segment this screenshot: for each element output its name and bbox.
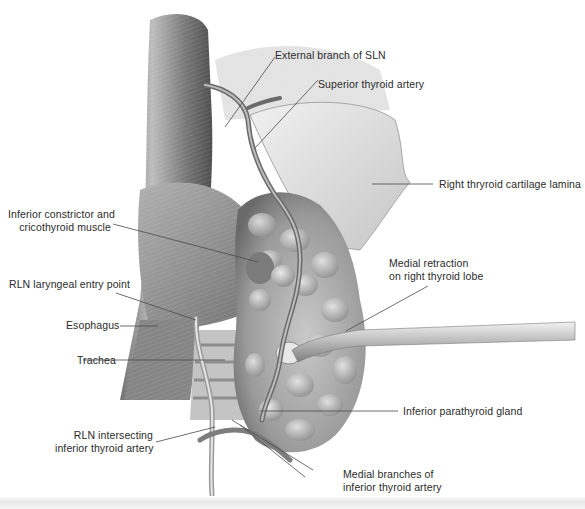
label-medial-branches-line2: inferior thyroid artery <box>343 481 442 494</box>
label-inferior-parathyroid: Inferior parathyroid gland <box>403 405 522 418</box>
superior-parathyroid <box>246 252 274 284</box>
label-inferior-constrictor-line2: cricothyroid muscle <box>8 221 111 234</box>
label-rln-intersecting-line1: RLN intersecting <box>55 429 153 442</box>
anatomy-diagram: External branch of SLN Superior thyroid … <box>0 0 585 509</box>
label-rln-intersecting: RLN intersecting inferior thyroid artery <box>55 429 153 455</box>
label-esophagus: Esophagus <box>66 319 119 332</box>
label-medial-branches: Medial branches of inferior thyroid arte… <box>343 468 442 494</box>
label-medial-retraction-line2: on right thyroid lobe <box>389 270 483 283</box>
bottom-divider <box>0 496 585 509</box>
label-inferior-constrictor-line1: Inferior constrictor and <box>8 208 111 221</box>
label-right-thyroid-cartilage-lamina: Right thryroid cartilage lamina <box>439 178 581 191</box>
label-medial-retraction: Medial retraction on right thyroid lobe <box>389 257 483 283</box>
label-inferior-constrictor: Inferior constrictor and cricothyroid mu… <box>8 208 111 234</box>
label-medial-retraction-line1: Medial retraction <box>389 257 483 270</box>
label-medial-branches-line1: Medial branches of <box>343 468 442 481</box>
label-trachea: Trachea <box>77 354 116 367</box>
label-external-branch-sln: External branch of SLN <box>275 49 386 62</box>
label-rln-intersecting-line2: inferior thyroid artery <box>55 442 153 455</box>
label-superior-thyroid-artery: Superior thyroid artery <box>318 78 424 91</box>
label-rln-entry-point: RLN laryngeal entry point <box>9 278 130 291</box>
